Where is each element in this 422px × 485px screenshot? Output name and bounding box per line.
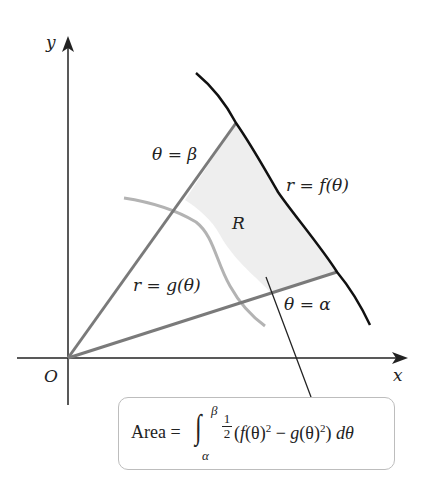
theta-arg-2: (θ) [299,423,320,443]
integral-sign: ∫ [195,408,202,446]
d-theta: dθ [336,423,354,443]
region-r-fill [185,123,337,293]
inner-curve-label: r = g(θ) [133,277,201,294]
theta-arg-1: (θ) [245,423,266,443]
lower-limit: α [202,448,209,464]
area-formula-box: Area = ∫ β α 1 2 (f(θ)2 − g(θ)2) dθ [118,397,395,470]
close-paren: ) [325,423,336,443]
fraction-numerator: 1 [222,412,232,426]
formula-lhs: Area = [131,422,181,443]
g-symbol: g [290,423,299,443]
ray-alpha-label: θ = α [284,296,331,313]
y-axis-label: y [46,34,56,51]
x-axis-label: x [393,367,403,384]
ray-beta-label: θ = β [152,146,197,163]
origin-label: O [44,368,58,385]
outer-curve-label: r = f(θ) [286,177,349,194]
ray-alpha [68,272,337,358]
one-half-fraction: 1 2 [222,412,232,441]
region-label: R [232,215,245,232]
upper-limit: β [211,403,217,419]
integrand: (f(θ)2 − g(θ)2) dθ [234,422,354,444]
minus-sign: − [271,423,290,443]
fraction-denominator: 2 [222,426,232,441]
